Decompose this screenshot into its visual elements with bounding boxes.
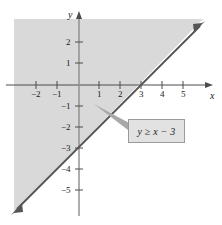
x-tick-label-2: 2	[118, 90, 123, 99]
y-tick-label--3: −3	[61, 144, 71, 153]
y-tick-label-2: 2	[66, 38, 71, 47]
y-tick-label--4: −4	[61, 165, 71, 174]
x-tick-label-5: 5	[181, 90, 186, 99]
coordinate-plane	[0, 0, 222, 225]
x-tick-label--1: −1	[52, 90, 62, 99]
inequality-graph-figure: −2 −1 1 2 3 4 5 2 1 −1 −2 −3 −4 −5 y x y…	[0, 0, 222, 225]
y-axis-label: y	[68, 10, 72, 20]
y-tick-label--2: −2	[61, 123, 71, 132]
x-tick-label-3: 3	[139, 90, 144, 99]
x-axis-label: x	[210, 91, 214, 101]
inequality-callout-box: y ≥ x − 3	[128, 119, 185, 143]
y-tick-label--1: −1	[61, 102, 71, 111]
x-tick-label-4: 4	[160, 90, 165, 99]
y-tick-label-1: 1	[66, 59, 71, 68]
y-tick-label--5: −5	[61, 186, 71, 195]
y-axis-arrowhead	[76, 11, 82, 19]
inequality-callout-text: y ≥ x − 3	[138, 126, 176, 137]
x-tick-label-1: 1	[97, 90, 102, 99]
x-tick-label--2: −2	[31, 90, 41, 99]
x-axis-arrowhead	[205, 82, 213, 88]
